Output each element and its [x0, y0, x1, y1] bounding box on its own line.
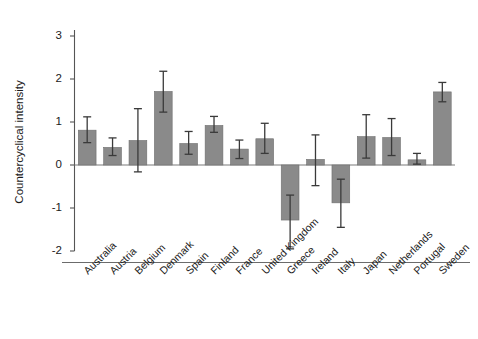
y-tick-label: 0 — [40, 159, 62, 170]
y-tick-label: 3 — [40, 30, 62, 41]
chart-figure: Countercyclical intensity -2-10123 Austr… — [0, 0, 478, 339]
y-tick-label: -1 — [40, 202, 62, 213]
y-tick-label: 2 — [40, 73, 62, 84]
y-tick-label: -2 — [40, 245, 62, 256]
y-tick-labels: -2-10123 — [38, 0, 62, 339]
bar — [433, 92, 451, 165]
y-tick-label: 1 — [40, 116, 62, 127]
bar-chart-plot — [0, 0, 478, 339]
